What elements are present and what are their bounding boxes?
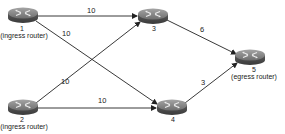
router-icon-5 — [235, 50, 265, 66]
node-4-label: 4 — [171, 116, 175, 124]
routers — [8, 8, 265, 116]
edge-2-3 — [36, 22, 140, 103]
edge-2-3-weight: 10 — [61, 78, 69, 86]
node-2-role: (ingress router) — [0, 123, 47, 131]
node-1-role: (ingress router) — [0, 32, 47, 40]
network-diagram — [0, 0, 285, 134]
edge-4-5 — [185, 63, 237, 103]
node-5-role: (egress router) — [231, 73, 277, 81]
router-icon-3 — [138, 9, 168, 25]
edge-1-3-weight: 10 — [87, 7, 95, 15]
edge-2-4-weight: 10 — [98, 97, 106, 105]
router-icon-4 — [157, 100, 187, 116]
router-icon-2 — [8, 100, 38, 116]
edge-1-4 — [36, 21, 157, 104]
router-icon-1 — [8, 8, 38, 24]
edge-3-5-weight: 6 — [200, 26, 204, 34]
node-3-label: 3 — [152, 25, 156, 33]
edge-4-5-weight: 3 — [201, 79, 205, 87]
edge-1-4-weight: 10 — [62, 30, 70, 38]
